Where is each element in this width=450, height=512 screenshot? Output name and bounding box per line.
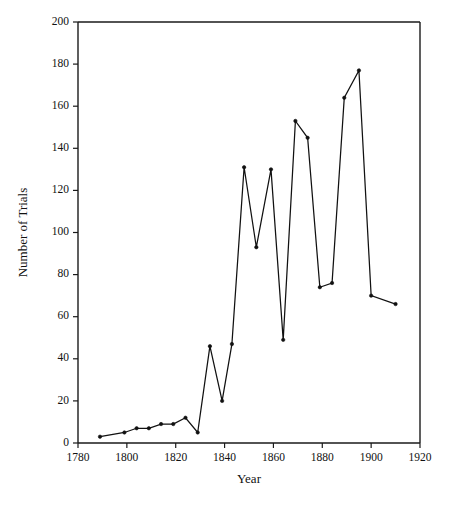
data-point: [196, 431, 199, 434]
y-tick-label: 180: [52, 57, 70, 69]
data-point: [282, 338, 285, 341]
x-axis-tick-group: 17801800182018401860188019001920: [67, 443, 432, 463]
x-tick-label: 1880: [311, 451, 334, 463]
data-point: [220, 399, 223, 402]
y-tick-label: 200: [52, 15, 70, 27]
x-axis-title: Year: [237, 471, 262, 486]
x-tick-label: 1800: [115, 451, 138, 463]
data-point: [159, 422, 162, 425]
data-point: [357, 69, 360, 72]
line-chart: 020406080100120140160180200 178018001820…: [0, 0, 450, 512]
y-tick-label: 160: [52, 99, 70, 111]
y-tick-label: 40: [58, 351, 70, 363]
y-tick-label: 120: [52, 183, 70, 195]
y-axis-title: Number of Trials: [15, 188, 30, 278]
y-tick-label: 20: [58, 394, 70, 406]
data-point: [135, 427, 138, 430]
y-tick-label: 80: [58, 267, 70, 279]
data-point: [172, 422, 175, 425]
data-point: [318, 286, 321, 289]
data-point: [369, 294, 372, 297]
x-tick-label: 1920: [409, 451, 432, 463]
data-point: [242, 166, 245, 169]
trials-series-line: [100, 70, 396, 436]
data-point: [330, 281, 333, 284]
data-point: [294, 119, 297, 122]
x-tick-label: 1820: [164, 451, 187, 463]
x-tick-label: 1780: [67, 451, 90, 463]
data-point: [98, 435, 101, 438]
y-tick-label: 60: [58, 309, 70, 321]
y-tick-label: 0: [63, 436, 69, 448]
y-tick-label: 100: [52, 225, 70, 237]
data-point: [208, 344, 211, 347]
data-point: [269, 168, 272, 171]
data-point: [123, 431, 126, 434]
x-tick-label: 1900: [360, 451, 383, 463]
y-axis-tick-group: 020406080100120140160180200: [52, 15, 78, 448]
data-point: [184, 416, 187, 419]
x-tick-label: 1860: [262, 451, 285, 463]
data-point: [147, 427, 150, 430]
trials-series-markers: [98, 69, 397, 439]
data-point: [255, 246, 258, 249]
x-tick-label: 1840: [213, 451, 236, 463]
chart-canvas: 020406080100120140160180200 178018001820…: [0, 0, 450, 512]
data-point: [343, 96, 346, 99]
data-point: [230, 342, 233, 345]
chart-page: 020406080100120140160180200 178018001820…: [0, 0, 450, 512]
data-point: [394, 302, 397, 305]
data-point: [306, 136, 309, 139]
y-tick-label: 140: [52, 141, 70, 153]
